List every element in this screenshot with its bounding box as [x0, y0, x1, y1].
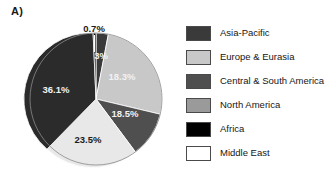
legend-item-central-south-america[interactable]: Central & South America [186, 69, 328, 93]
slice-label-europe-eurasia: 18.3% [109, 71, 136, 82]
legend-swatch-africa [186, 122, 211, 137]
legend-item-middle-east[interactable]: Middle East [186, 141, 328, 165]
pie-chart: 3% 18.3% 18.5% 23.5% 36.1% 0.7% [22, 22, 172, 174]
legend-swatch-central-south-america [186, 74, 211, 89]
pie-chart-svg: 3% 18.3% 18.5% 23.5% 36.1% 0.7% [22, 22, 172, 174]
legend-swatch-europe-eurasia [186, 50, 211, 65]
legend-label-africa: Africa [220, 124, 244, 134]
slice-label-asia-pacific: 3% [94, 50, 108, 61]
legend-swatch-middle-east [186, 146, 211, 161]
legend-label-middle-east: Middle East [220, 148, 270, 158]
legend-label-europe-eurasia: Europe & Eurasia [220, 52, 294, 62]
legend-item-north-america[interactable]: North America [186, 93, 328, 117]
slice-label-north-america: 23.5% [75, 134, 102, 145]
legend-item-asia-pacific[interactable]: Asia-Pacific [186, 21, 328, 45]
legend: Asia-Pacific Europe & Eurasia Central & … [186, 21, 328, 171]
legend-label-north-america: North America [220, 100, 280, 110]
slice-label-middle-east: 36.1% [43, 84, 70, 95]
legend-item-europe-eurasia[interactable]: Europe & Eurasia [186, 45, 328, 69]
legend-swatch-asia-pacific [186, 26, 211, 41]
slice-label-central-south-america: 18.5% [112, 108, 139, 119]
legend-label-central-south-america: Central & South America [220, 76, 324, 86]
legend-label-asia-pacific: Asia-Pacific [220, 28, 270, 38]
legend-item-africa[interactable]: Africa [186, 117, 328, 141]
legend-swatch-north-america [186, 98, 211, 113]
panel-label: A) [11, 5, 23, 17]
figure-panel-a: A) 3% 18.3 [0, 0, 331, 184]
slice-label-africa: 0.7% [83, 23, 105, 34]
